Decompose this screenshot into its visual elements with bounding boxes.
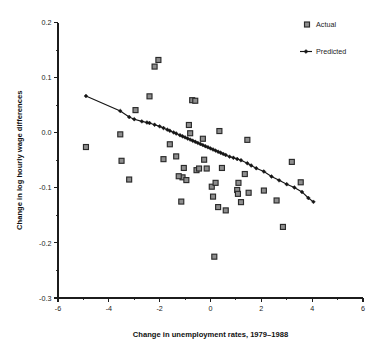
predicted-point-marker — [228, 155, 232, 159]
predicted-point-marker — [231, 156, 235, 160]
actual-point-marker — [216, 205, 221, 210]
y-tick-label: -0.2 — [39, 239, 51, 248]
predicted-point-marker — [162, 126, 166, 130]
y-tick-label: 0.1 — [42, 73, 52, 82]
actual-point-marker — [83, 145, 88, 150]
actual-point-marker — [186, 122, 191, 127]
actual-point-marker — [179, 199, 184, 204]
actual-point-marker — [167, 142, 172, 147]
chart-figure: -0.3-0.2-0.10.00.10.2-6-4-20246 ActualPr… — [0, 0, 384, 357]
actual-point-marker — [174, 154, 179, 159]
chart-legend: ActualPredicted — [300, 20, 346, 56]
predicted-point-marker — [132, 117, 136, 121]
y-axis-title: Change in log hourly wage differences — [15, 91, 24, 230]
x-tick-label: -4 — [106, 304, 112, 313]
y-tick-label: -0.1 — [39, 183, 51, 192]
actual-point-marker — [298, 180, 303, 185]
x-tick-label: 2 — [259, 304, 263, 313]
actual-point-marker — [202, 157, 207, 162]
actual-point-marker — [219, 165, 224, 170]
actual-point-marker — [289, 159, 294, 164]
actual-point-marker — [193, 98, 198, 103]
actual-point-marker — [197, 166, 202, 171]
actual-point-marker — [242, 172, 247, 177]
actual-point-marker — [181, 165, 186, 170]
actual-point-marker — [274, 198, 279, 203]
actual-point-marker — [127, 177, 132, 182]
predicted-point-marker — [277, 178, 281, 182]
x-axis-title: Change in unemployment rates, 1979–1988 — [133, 330, 288, 339]
actual-point-marker — [239, 200, 244, 205]
x-tick-label: -2 — [156, 304, 162, 313]
actual-point-marker — [245, 137, 250, 142]
actual-point-marker — [204, 166, 209, 171]
actual-point-marker — [280, 224, 285, 229]
actual-point-marker — [217, 129, 222, 134]
axis-titles: Change in unemployment rates, 1979–1988C… — [15, 91, 288, 339]
actual-point-marker — [161, 157, 166, 162]
actual-point-marker — [119, 158, 124, 163]
x-tick-label: 4 — [310, 304, 314, 313]
actual-point-marker — [200, 136, 205, 141]
actual-point-marker — [211, 194, 216, 199]
actual-point-marker — [184, 178, 189, 183]
predicted-point-marker — [84, 94, 88, 98]
predicted-point-marker — [158, 124, 162, 128]
actual-point-marker — [212, 254, 217, 259]
legend-actual-label: Actual — [316, 20, 336, 29]
actual-point-marker — [236, 180, 241, 185]
actual-point-marker — [246, 190, 251, 195]
actual-point-marker — [176, 174, 181, 179]
actual-point-marker — [235, 191, 240, 196]
y-tick-label: 0.2 — [42, 18, 52, 27]
actual-point-marker — [152, 64, 157, 69]
x-tick-label: 6 — [361, 304, 365, 313]
predicted-point-marker — [239, 158, 243, 162]
actual-point-marker — [223, 208, 228, 213]
actual-point-marker — [147, 94, 152, 99]
actual-point-marker — [118, 132, 123, 137]
x-tick-label: 0 — [209, 304, 213, 313]
x-tick-label: -6 — [55, 304, 61, 313]
scatter-plot-svg: -0.3-0.2-0.10.00.10.2-6-4-20246 ActualPr… — [0, 0, 384, 357]
predicted-point-marker — [285, 182, 289, 186]
predicted-point-marker — [140, 119, 144, 123]
y-tick-label: -0.3 — [39, 294, 51, 303]
data-series — [83, 57, 315, 259]
actual-point-marker — [261, 188, 266, 193]
y-tick-label: 0.0 — [42, 128, 52, 137]
actual-point-marker — [188, 131, 193, 136]
legend-predicted-label: Predicted — [316, 47, 346, 56]
legend-actual-marker — [305, 22, 310, 27]
predicted-point-marker — [235, 157, 239, 161]
predicted-point-marker — [153, 123, 157, 127]
actual-point-marker — [213, 180, 218, 185]
actual-point-marker — [156, 57, 161, 62]
legend-predicted-marker — [304, 49, 308, 53]
actual-point-marker — [133, 108, 138, 113]
